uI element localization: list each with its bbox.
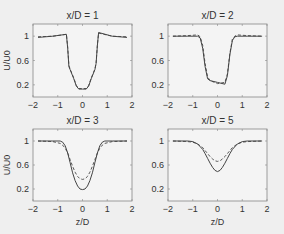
figure: x/D = 1−2−10120.20.61U/U0x/D = 2−2−10120… (0, 0, 284, 234)
y-axis-label: U/U0 (2, 155, 12, 176)
x-tick-label: 2 (264, 100, 269, 110)
y-tick-label: 0.2 (151, 80, 164, 90)
subplot-3: x/D = 3−2−10120.20.61U/U0z/D (2, 115, 135, 227)
axes-box (33, 24, 132, 97)
subplot-1: x/D = 1−2−10120.20.61U/U0 (2, 10, 135, 110)
y-tick-label: 0.2 (151, 184, 164, 194)
y-axis-label: U/U0 (2, 50, 12, 71)
axes-box (168, 24, 267, 97)
x-tick-label: −1 (188, 204, 198, 214)
y-tick-label: 0.2 (16, 80, 29, 90)
x-tick-label: −2 (28, 100, 38, 110)
y-tick-label: 0.6 (16, 160, 29, 170)
x-tick-label: 1 (240, 100, 245, 110)
x-axis-label: z/D (211, 217, 225, 227)
x-tick-label: 0 (80, 204, 85, 214)
axes-box (33, 129, 132, 201)
subplot-title: x/D = 1 (67, 10, 99, 21)
y-tick-label: 0.6 (16, 56, 29, 66)
x-tick-label: 2 (129, 204, 134, 214)
x-tick-label: 0 (215, 204, 220, 214)
y-tick-label: 1 (159, 31, 164, 41)
y-tick-label: 1 (24, 31, 29, 41)
x-axis-label: z/D (76, 217, 90, 227)
x-tick-label: −1 (188, 100, 198, 110)
y-tick-label: 1 (24, 136, 29, 146)
x-tick-label: −2 (28, 204, 38, 214)
x-tick-label: −2 (163, 100, 173, 110)
x-tick-label: 2 (264, 204, 269, 214)
axes-box (168, 129, 267, 201)
x-tick-label: −1 (53, 100, 63, 110)
x-tick-label: 1 (105, 100, 110, 110)
x-tick-label: 0 (80, 100, 85, 110)
subplot-2: x/D = 2−2−10120.20.61 (151, 10, 269, 110)
subplot-title: x/D = 2 (202, 10, 234, 21)
x-tick-label: −2 (163, 204, 173, 214)
y-tick-label: 0.6 (151, 56, 164, 66)
y-tick-label: 1 (159, 136, 164, 146)
x-tick-label: 0 (215, 100, 220, 110)
y-tick-label: 0.2 (16, 184, 29, 194)
x-tick-label: −1 (53, 204, 63, 214)
x-tick-label: 1 (240, 204, 245, 214)
y-tick-label: 0.6 (151, 160, 164, 170)
x-tick-label: 1 (105, 204, 110, 214)
subplot-title: x/D = 3 (67, 115, 99, 126)
subplot-4: x/D = 5−2−10120.20.61z/D (151, 115, 269, 227)
x-tick-label: 2 (129, 100, 134, 110)
subplot-title: x/D = 5 (202, 115, 234, 126)
